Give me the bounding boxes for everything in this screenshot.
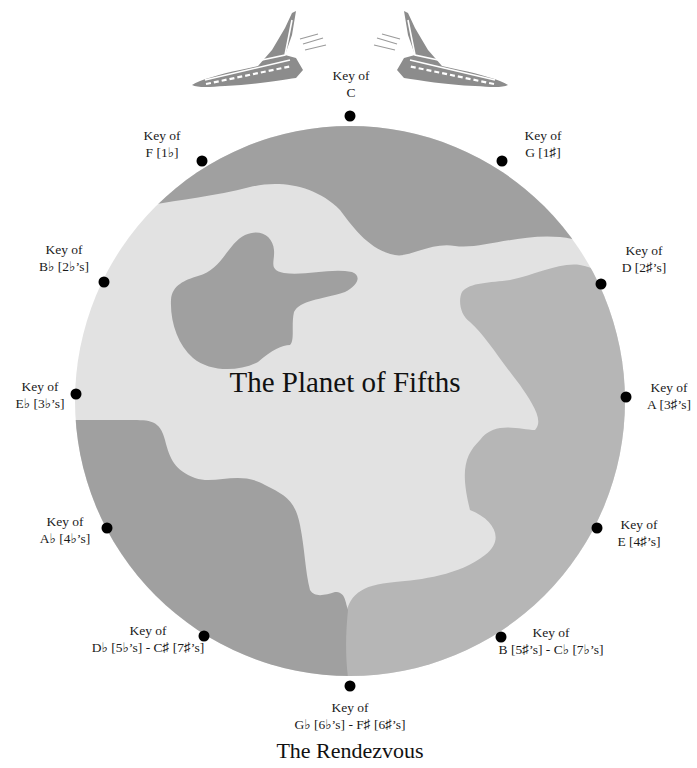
key-label-line1: Key of	[295, 699, 406, 716]
key-label-c: Key of C	[332, 67, 369, 101]
key-dot-d	[596, 279, 607, 290]
key-label-line2: E [4♯’s]	[617, 533, 660, 550]
key-label-line1: Key of	[92, 622, 204, 639]
key-dot-f	[197, 156, 208, 167]
key-label-eb: Key of E♭ [3♭’s]	[15, 378, 64, 412]
key-label-line2: B♭ [2♭’s]	[39, 258, 89, 275]
key-label-bb: Key of B♭ [2♭’s]	[39, 241, 89, 275]
key-label-db: Key of D♭ [5♭’s] - C♯ [7♯’s]	[92, 622, 204, 656]
key-dot-gb	[345, 681, 356, 692]
key-label-line1: Key of	[332, 67, 369, 84]
key-dot-g	[497, 156, 508, 167]
right-space-shuttle-icon	[374, 11, 508, 87]
key-label-ab: Key of A♭ [4♭’s]	[40, 513, 91, 547]
key-dot-c	[345, 111, 356, 122]
key-label-line2: D♭ [5♭’s] - C♯ [7♯’s]	[92, 639, 204, 656]
key-label-line2: G [1♯]	[524, 144, 561, 161]
key-label-line2: A [3♯’s]	[647, 396, 691, 413]
key-label-line2: D [2♯’s]	[622, 259, 667, 276]
key-label-line1: Key of	[524, 127, 561, 144]
key-label-line2: B [5♯’s] - C♭ [7♭’s]	[499, 641, 604, 658]
key-label-line1: Key of	[647, 379, 691, 396]
key-label-d: Key of D [2♯’s]	[622, 242, 667, 276]
circle-of-fifths-diagram: Key of C Key of G [1♯] Key of D [2♯’s] K…	[0, 0, 697, 768]
key-label-line2: C	[332, 84, 369, 101]
key-label-line1: Key of	[39, 241, 89, 258]
key-label-g: Key of G [1♯]	[524, 127, 561, 161]
planet-body	[60, 120, 640, 700]
key-label-b: Key of B [5♯’s] - C♭ [7♭’s]	[499, 624, 604, 658]
key-label-line1: Key of	[40, 513, 91, 530]
key-dot-bb	[99, 277, 110, 288]
key-label-line2: G♭ [6♭’s] - F♯ [6♯’s]	[295, 716, 406, 733]
key-label-line1: Key of	[617, 516, 660, 533]
key-label-e: Key of E [4♯’s]	[617, 516, 660, 550]
key-label-f: Key of F [1♭]	[143, 127, 180, 161]
key-label-line2: F [1♭]	[143, 144, 180, 161]
key-dot-eb	[71, 389, 82, 400]
planet-title: The Planet of Fifths	[229, 366, 460, 399]
key-label-gb: Key of G♭ [6♭’s] - F♯ [6♯’s]	[295, 699, 406, 733]
key-label-line1: Key of	[499, 624, 604, 641]
key-label-line1: Key of	[143, 127, 180, 144]
key-dot-a	[621, 392, 632, 403]
key-label-line1: Key of	[15, 378, 64, 395]
key-label-line1: Key of	[622, 242, 667, 259]
key-label-line2: A♭ [4♭’s]	[40, 530, 91, 547]
key-dot-e	[592, 523, 603, 534]
key-label-a: Key of A [3♯’s]	[647, 379, 691, 413]
left-space-shuttle-icon	[192, 11, 326, 87]
rendezvous-caption: The Rendezvous	[276, 738, 423, 764]
key-dot-ab	[102, 523, 113, 534]
key-label-line2: E♭ [3♭’s]	[15, 395, 64, 412]
